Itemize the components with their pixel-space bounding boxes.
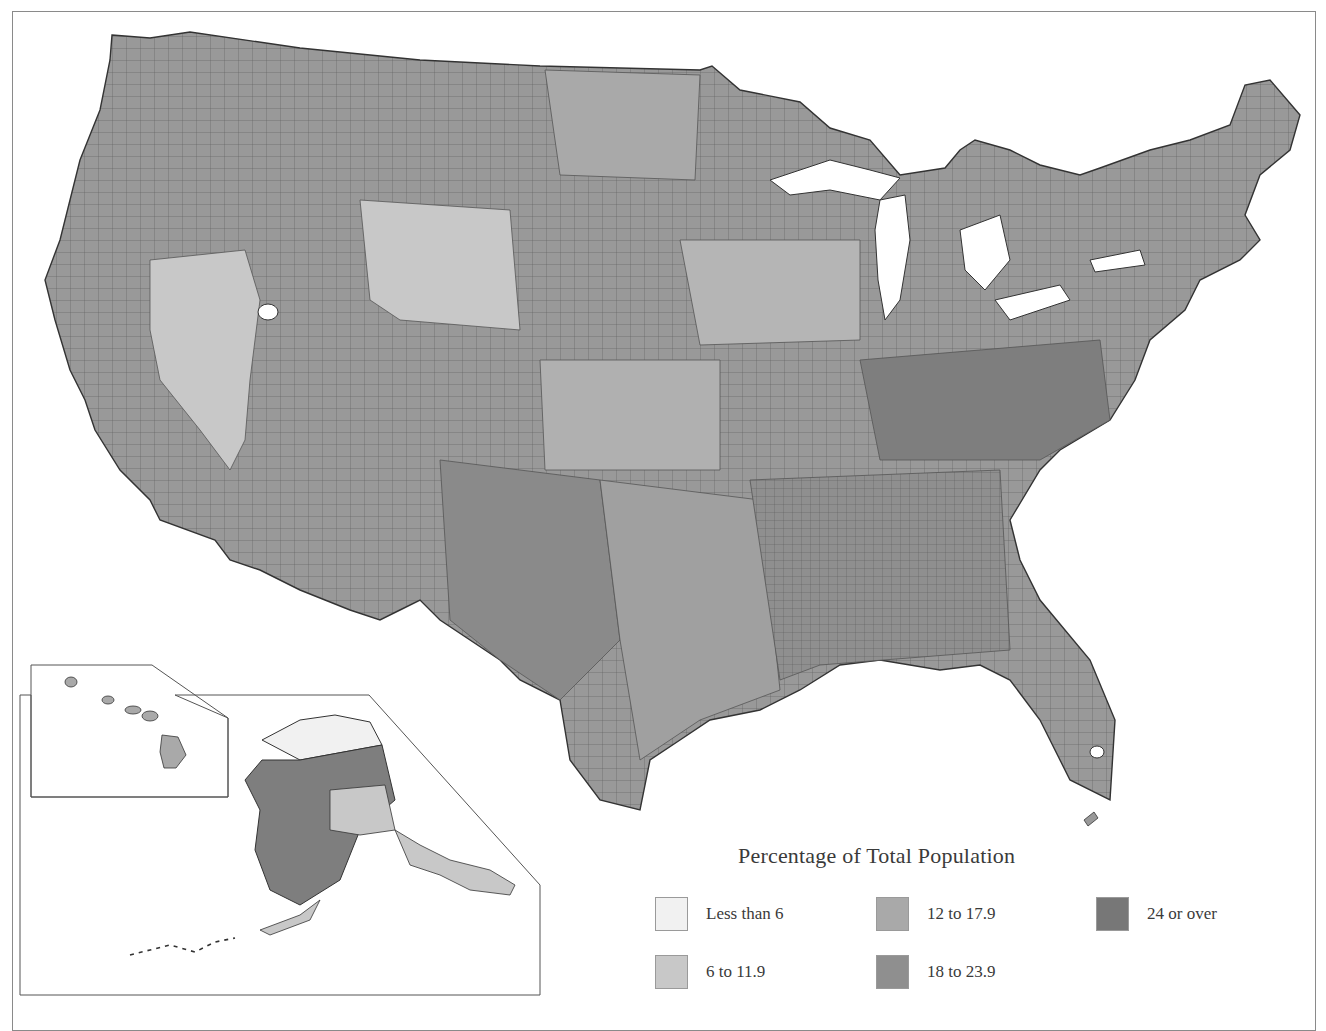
florida-keys [1084,812,1098,826]
great-salt-lake [258,304,278,320]
legend-label: 24 or over [1147,904,1217,924]
legend-swatch [876,897,909,931]
legend-swatch [655,955,688,989]
lake-okeechobee [1090,746,1104,758]
legend-label: 18 to 23.9 [927,962,995,982]
legend-title: Percentage of Total Population [738,843,1015,869]
legend-label: 12 to 17.9 [927,904,995,924]
region-west-texas [440,460,620,700]
region-north-dakota [545,70,700,180]
region-kansas [540,360,720,470]
alaska-peninsula [260,900,320,935]
legend-item-18-to-23-9: 18 to 23.9 [876,955,995,989]
hawaii-inset-frame [31,665,228,797]
legend-item-12-to-17-9: 12 to 17.9 [876,897,995,931]
alaska-southeast [395,830,515,895]
legend-swatch [1096,897,1129,931]
legend-item-24-or-over: 24 or over [1096,897,1217,931]
legend-swatch [655,897,688,931]
aleutian-islands [130,938,235,955]
contiguous-us [45,32,1300,826]
region-deep-south [750,470,1010,680]
region-iowa [680,240,860,345]
legend-item-less-than-6: Less than 6 [655,897,783,931]
legend-swatch [876,955,909,989]
legend-label: 6 to 11.9 [706,962,765,982]
alaska-interior [330,785,395,835]
legend-label: Less than 6 [706,904,783,924]
legend-item-6-to-11-9: 6 to 11.9 [655,955,765,989]
